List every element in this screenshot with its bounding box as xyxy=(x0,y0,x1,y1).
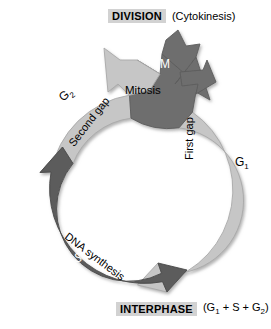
cytokinesis-label: (Cytokinesis) xyxy=(172,10,236,22)
division-label: DIVISION xyxy=(108,9,166,23)
m-phase-short-label: M xyxy=(160,57,170,71)
s-short-label: S xyxy=(74,251,82,265)
interphase-label: INTERPHASE xyxy=(116,302,197,316)
g1-name-label: First gap xyxy=(183,117,195,160)
mitosis-label: Mitosis xyxy=(125,84,161,96)
division-label-group: DIVISION (Cytokinesis) xyxy=(108,9,235,23)
interphase-label-group: INTERPHASE (G1 + S + G2) xyxy=(116,301,269,316)
g1-short-label: G1 xyxy=(235,155,249,171)
cell-cycle-diagram: DIVISION (Cytokinesis) INTERPHASE (G1 + … xyxy=(0,0,271,329)
interphase-formula: (G1 + S + G2) xyxy=(203,301,269,316)
cell-cycle-ring-graphic xyxy=(0,0,271,329)
